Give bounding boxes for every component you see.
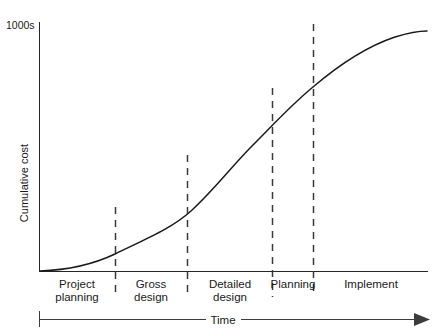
phase-label-project-planning-line2: planning <box>55 291 98 303</box>
phase-label-detailed-design-line2: design <box>213 291 247 303</box>
chart-figure: 1000s Cumulative cost Project planning G… <box>0 0 447 336</box>
phase-label-gross-design-line1: Gross <box>136 278 167 290</box>
phase-label-planning-line1: Planning <box>271 278 316 290</box>
cumulative-cost-curve <box>40 31 427 271</box>
phase-label-gross-design-line2: design <box>134 291 168 303</box>
y-axis-title: Cumulative cost <box>18 144 30 222</box>
y-axis-unit-label: 1000s <box>6 19 35 31</box>
x-axis-title: Time <box>210 314 235 326</box>
time-axis-arrow-icon <box>414 313 430 326</box>
phase-label-project-planning-line1: Project <box>59 278 96 290</box>
phase-label-implement-line1: Implement <box>344 278 398 290</box>
chart-canvas: 1000s Cumulative cost Project planning G… <box>0 0 447 336</box>
phase-label-detailed-design-line1: Detailed <box>209 278 251 290</box>
